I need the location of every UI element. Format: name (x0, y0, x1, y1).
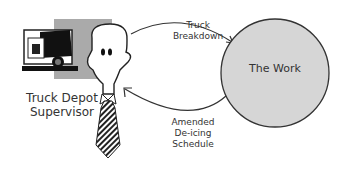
edge-amended-schedule (125, 89, 226, 110)
actor-label-line1: Truck Depot (22, 91, 102, 105)
eye-icon (108, 49, 112, 56)
the-work-label: The Work (235, 63, 315, 74)
actor-label: Truck Depot Supervisor (22, 91, 102, 119)
edge-label-line: De-icing (158, 128, 228, 139)
edge-label-line: Schedule (158, 139, 228, 150)
edge-label-truck-breakdown: Truck Breakdown (168, 20, 228, 42)
edge-label-line: Breakdown (168, 31, 228, 42)
edge-label-line: Amended (158, 117, 228, 128)
edge-label-line: Truck (168, 20, 228, 31)
edge-label-amended-schedule: Amended De-icing Schedule (158, 117, 228, 150)
actor-label-line2: Supervisor (22, 105, 102, 119)
eye-icon (101, 49, 105, 56)
